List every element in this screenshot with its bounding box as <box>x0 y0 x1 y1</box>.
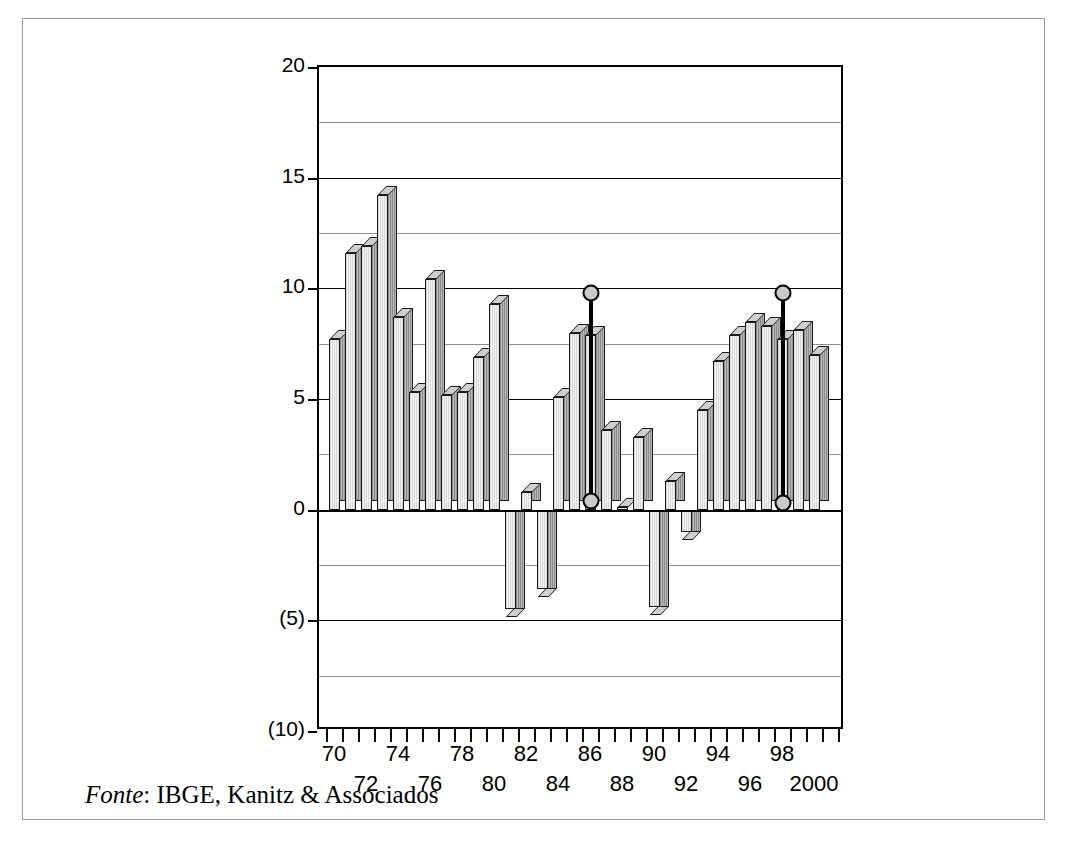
marker-dot-bottom <box>582 492 599 509</box>
bar-front-face <box>361 246 372 509</box>
bar <box>809 355 820 510</box>
x-axis-tick-label: 88 <box>610 771 634 797</box>
x-axis-tick-label: 86 <box>578 741 602 767</box>
bar <box>345 253 356 510</box>
bar-front-face <box>425 279 436 509</box>
bar-front-face <box>521 492 532 510</box>
bar-side-face <box>820 346 829 501</box>
marker-1986 <box>581 293 601 501</box>
bar-front-face <box>553 397 564 510</box>
bar-front-face <box>489 304 500 510</box>
bar-side-face <box>692 510 701 532</box>
bar <box>601 430 612 510</box>
bar <box>505 510 516 610</box>
bar <box>553 397 564 510</box>
bar-side-face <box>548 510 557 590</box>
gridline <box>319 122 841 123</box>
y-axis-tick-label: 0 <box>293 496 305 520</box>
plot-area <box>317 65 843 729</box>
source-text: : IBGE, Kanitz & Associados <box>143 781 438 808</box>
bar <box>665 481 676 510</box>
x-axis-tick-label: 78 <box>450 741 474 767</box>
source-label: Fonte <box>85 781 143 808</box>
bar-front-face <box>537 510 548 590</box>
bar <box>489 304 500 510</box>
bar-front-face <box>649 510 660 607</box>
bar-front-face <box>569 333 580 510</box>
y-axis-tick <box>308 399 317 401</box>
x-axis-tick-label: 2000 <box>790 771 839 797</box>
bar-front-face <box>601 430 612 510</box>
marker-stem <box>781 293 785 503</box>
bar-front-face <box>809 355 820 510</box>
bar-front-face <box>505 510 516 610</box>
bar <box>457 392 468 509</box>
bar <box>329 339 340 509</box>
marker-dot-top <box>582 284 599 301</box>
bar-front-face <box>633 437 644 510</box>
y-axis-tick <box>308 510 317 512</box>
bar <box>697 410 708 510</box>
bar <box>761 326 772 510</box>
y-axis-tick-label: 20 <box>282 53 305 77</box>
bar-front-face <box>457 392 468 509</box>
x-axis-tick-label: 98 <box>770 741 794 767</box>
figure-frame: 20151050(5)(10) 707478828690949872768084… <box>22 18 1045 820</box>
bar <box>745 322 756 510</box>
bar <box>537 510 548 590</box>
y-axis-tick-label: 15 <box>282 164 305 188</box>
bar-front-face <box>393 317 404 510</box>
bar-front-face <box>761 326 772 510</box>
source-caption: Fonte: IBGE, Kanitz & Associados <box>85 781 438 809</box>
y-axis-tick-label: 5 <box>293 385 305 409</box>
bar <box>713 361 724 509</box>
gridline <box>319 565 841 566</box>
bar <box>569 333 580 510</box>
bar-front-face <box>665 481 676 510</box>
x-axis-tick-label: 92 <box>674 771 698 797</box>
bar-top-cap <box>505 608 525 617</box>
gridline <box>319 676 841 677</box>
bar-front-face <box>345 253 356 510</box>
bar-front-face <box>473 357 484 510</box>
zero-axis-line <box>319 510 841 512</box>
y-axis-tick <box>308 178 317 180</box>
y-axis-tick <box>308 731 317 733</box>
bar-top-cap <box>681 531 701 540</box>
bar <box>649 510 660 607</box>
bar-top-cap <box>649 606 669 615</box>
bar <box>681 510 692 532</box>
x-axis-tick-label: 94 <box>706 741 730 767</box>
bar-top-cap <box>537 588 557 597</box>
marker-1998 <box>773 293 793 503</box>
x-axis-tick-label: 90 <box>642 741 666 767</box>
bar-front-face <box>697 410 708 510</box>
bar <box>377 195 388 509</box>
bar <box>425 279 436 509</box>
gridline <box>319 288 841 289</box>
gridline <box>319 620 841 621</box>
x-axis-tick-label: 74 <box>386 741 410 767</box>
bar-front-face <box>409 392 420 509</box>
bar-front-face <box>793 330 804 509</box>
y-axis-labels: 20151050(5)(10) <box>255 65 305 729</box>
bar <box>441 395 452 510</box>
bar <box>633 437 644 510</box>
y-axis-tick <box>308 620 317 622</box>
bar-front-face <box>729 335 740 510</box>
bar-side-face <box>660 510 669 607</box>
x-axis-tick-label: 84 <box>546 771 570 797</box>
marker-stem <box>589 293 593 501</box>
bar-front-face <box>745 322 756 510</box>
x-axis-tick-label: 82 <box>514 741 538 767</box>
gridline <box>319 178 841 179</box>
bar-front-face <box>377 195 388 509</box>
bar <box>361 246 372 509</box>
y-axis-tick <box>308 67 317 69</box>
y-axis-tick <box>308 288 317 290</box>
bar-side-face <box>612 421 621 501</box>
bar <box>729 335 740 510</box>
bar-side-face <box>516 510 525 610</box>
bar-side-face <box>644 428 653 501</box>
bar <box>393 317 404 510</box>
